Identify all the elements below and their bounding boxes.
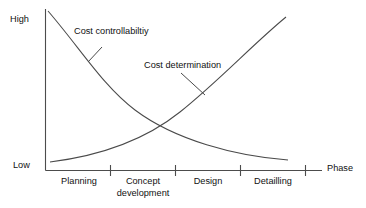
y-axis-high-label: High <box>10 14 29 25</box>
leader-line-determination <box>181 73 205 95</box>
x-category-detailling: Detailling <box>242 176 304 188</box>
x-category-planning: Planning <box>48 176 110 188</box>
cost-phase-chart: High Low Phase Cost controllabiltiy Cost… <box>0 0 366 208</box>
x-axis-title: Phase <box>327 163 353 174</box>
series-label-cost-determination: Cost determination <box>144 60 221 71</box>
y-axis-low-label: Low <box>13 160 30 171</box>
x-category-concept-development-line2: development <box>112 188 174 200</box>
curve-cost-determination <box>50 17 286 162</box>
leader-line-controllability <box>88 47 102 62</box>
x-category-concept-development-line1: Concept <box>112 176 174 188</box>
series-label-cost-controllability: Cost controllabiltiy <box>74 26 149 37</box>
x-category-design-line1: Design <box>177 176 239 188</box>
x-category-concept-development: Concept development <box>112 176 174 199</box>
x-category-planning-line1: Planning <box>48 176 110 188</box>
x-category-design: Design <box>177 176 239 188</box>
x-category-detailling-line1: Detailling <box>242 176 304 188</box>
